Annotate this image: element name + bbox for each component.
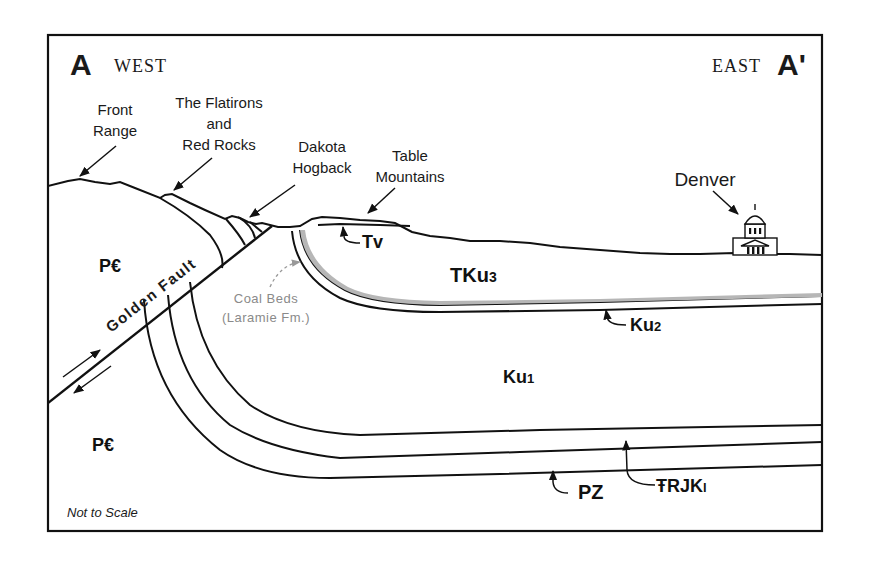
flatirons-label-1: The Flatirons (175, 94, 263, 111)
dakota-label-2: Hogback (292, 159, 352, 176)
front-range-label-1: Front (97, 101, 133, 118)
flatirons-label-2: and (206, 115, 231, 132)
geology-lines (48, 179, 822, 478)
section-start-direction: WEST (114, 56, 167, 76)
flatirons-label-3: Red Rocks (182, 136, 255, 153)
coal-beds-label-2: (Laramie Fm.) (222, 310, 310, 325)
denver-arrow (713, 191, 738, 214)
coal-beds-label-1: Coal Beds (234, 291, 298, 306)
ku2-arrow (606, 310, 626, 325)
unit-trjkl: ŦRJKl (656, 476, 707, 496)
pz-arrow (553, 471, 568, 493)
unit-ku2: Ku2 (630, 315, 661, 335)
unit-tku3: TKu3 (450, 264, 497, 286)
fault-up-arrow (63, 350, 100, 377)
table-mountains-label-1: Table (392, 147, 428, 164)
front-range-arrow (80, 146, 116, 176)
coal-beds-arrow (270, 262, 300, 287)
front-range-label-2: Range (93, 122, 137, 139)
ground-surface (48, 179, 822, 255)
cross-section-diagram: A WEST EAST A' Front Range The Flatirons… (0, 0, 870, 567)
unit-pz: PZ (578, 481, 604, 503)
unit-tv: Tv (362, 232, 383, 252)
unit-pc-lower: P€ (92, 435, 114, 455)
tv-arrow (343, 227, 360, 243)
pz-top (144, 300, 822, 478)
flatirons-arrow (174, 158, 212, 190)
capitol-building-icon (733, 204, 777, 255)
table-mountains-arrow (368, 188, 395, 213)
section-start-letter: A (70, 48, 92, 81)
dakota-label-1: Dakota (298, 138, 346, 155)
unit-ku1: Ku1 (503, 367, 534, 387)
scale-note: Not to Scale (67, 505, 138, 520)
dakota-arrow (250, 185, 295, 217)
section-end-letter: A' (777, 48, 806, 81)
table-mountains-label-2: Mountains (375, 168, 444, 185)
denver-label: Denver (674, 169, 736, 190)
unit-pc-upper: P€ (99, 256, 121, 276)
section-end-direction: EAST (712, 56, 761, 76)
